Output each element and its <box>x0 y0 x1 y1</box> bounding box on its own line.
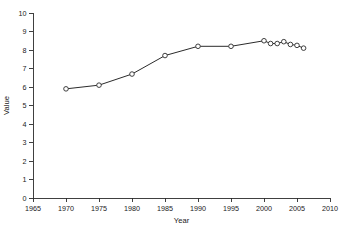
x-tick-label: 2000 <box>256 204 272 213</box>
data-point-marker <box>196 44 201 49</box>
y-tick-label: 2 <box>23 157 27 166</box>
data-point-marker <box>262 38 267 43</box>
y-tick-label: 1 <box>23 175 27 184</box>
y-tick-label: 7 <box>23 64 27 73</box>
data-point-marker <box>229 44 234 49</box>
x-axis-title: Year <box>174 216 190 225</box>
data-point-marker <box>130 72 135 77</box>
line-chart-plot: 0123456789101965197019751980198519901995… <box>0 0 351 227</box>
data-point-marker <box>301 46 306 51</box>
y-tick-label: 6 <box>23 83 27 92</box>
data-point-marker <box>282 39 287 44</box>
y-tick-label: 0 <box>23 194 27 203</box>
y-tick-label: 10 <box>19 9 27 18</box>
x-tick-label: 1975 <box>91 204 107 213</box>
y-tick-label: 9 <box>23 27 27 36</box>
y-tick-label: 8 <box>23 46 27 55</box>
data-point-marker <box>268 41 273 46</box>
x-tick-label: 1980 <box>124 204 140 213</box>
x-tick-label: 1995 <box>223 204 239 213</box>
chart-container: 0123456789101965197019751980198519901995… <box>0 0 351 227</box>
data-point-marker <box>97 83 102 88</box>
series-line-0 <box>66 41 304 89</box>
x-tick-label: 2005 <box>289 204 305 213</box>
x-tick-label: 2010 <box>322 204 338 213</box>
y-tick-label: 4 <box>23 120 27 129</box>
data-point-marker <box>295 43 300 48</box>
y-axis-title: Value <box>2 96 11 115</box>
x-tick-label: 1990 <box>190 204 206 213</box>
data-point-marker <box>64 87 69 92</box>
data-point-marker <box>163 53 168 58</box>
x-tick-label: 1965 <box>25 204 41 213</box>
data-point-marker <box>288 42 293 47</box>
x-tick-label: 1985 <box>157 204 173 213</box>
x-tick-label: 1970 <box>58 204 74 213</box>
data-point-marker <box>275 41 280 46</box>
y-tick-label: 3 <box>23 138 27 147</box>
y-tick-label: 5 <box>23 101 27 110</box>
